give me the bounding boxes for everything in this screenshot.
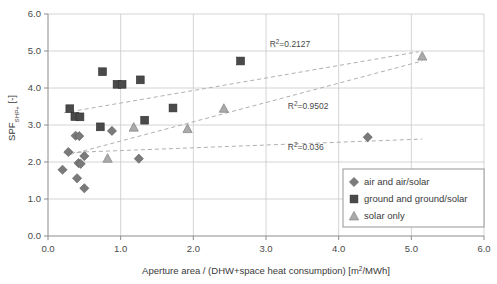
y-axis-title: SPFSHP+ [-] [6, 95, 20, 141]
r2-annotation: R2=0.036 [288, 140, 324, 152]
x-tick-label: 6.0 [477, 243, 490, 254]
data-point-square [141, 116, 149, 124]
y-tick-label: 2.0 [28, 156, 41, 167]
data-point-square [237, 57, 245, 65]
data-point-triangle [418, 52, 427, 61]
data-point-diamond [363, 133, 372, 142]
x-tick-label: 2.0 [187, 243, 200, 254]
data-point-diamond [64, 147, 73, 156]
x-tick-label: 3.0 [259, 243, 272, 254]
data-point-triangle [219, 104, 228, 113]
legend-label-2: solar only [364, 210, 405, 221]
y-tick-label: 1.0 [28, 193, 41, 204]
data-point-diamond [80, 184, 89, 193]
legend-label-0: air and air/solar [364, 176, 429, 187]
x-tick-label: 1.0 [114, 243, 127, 254]
legend: air and air/solarground and ground/solar… [343, 169, 484, 227]
data-point-square [118, 80, 126, 88]
series-solar-only [103, 52, 427, 163]
y-tick-label: 4.0 [28, 82, 41, 93]
data-point-square [96, 123, 104, 131]
data-point-triangle [129, 123, 138, 132]
y-tick-label: 6.0 [28, 8, 41, 19]
data-point-square [136, 76, 144, 84]
r2-annotation: R2=0.2127 [270, 38, 311, 50]
series-ground-and-ground-solar [66, 57, 245, 131]
data-point-square [350, 195, 358, 203]
data-point-square [76, 113, 84, 121]
data-point-diamond [58, 165, 67, 174]
data-point-diamond [107, 126, 116, 135]
data-point-square [99, 68, 107, 76]
data-point-square [66, 105, 74, 113]
x-tick-label: 5.0 [405, 243, 418, 254]
scatter-plot: 0.01.02.03.04.05.06.00.01.02.03.04.05.06… [0, 0, 497, 284]
data-point-square [169, 104, 177, 112]
x-tick-label: 0.0 [41, 243, 54, 254]
data-point-diamond [72, 174, 81, 183]
x-axis-title: Aperture area / (DHW+space heat consumpt… [142, 265, 390, 277]
chart-container: 0.01.02.03.04.05.06.00.01.02.03.04.05.06… [0, 0, 497, 284]
legend-label-1: ground and ground/solar [364, 193, 468, 204]
r2-annotation: R2=0.9502 [288, 100, 329, 112]
y-tick-label: 3.0 [28, 119, 41, 130]
data-point-triangle [103, 154, 112, 163]
y-tick-label: 0.0 [28, 230, 41, 241]
x-tick-label: 4.0 [332, 243, 345, 254]
y-tick-label: 5.0 [28, 45, 41, 56]
